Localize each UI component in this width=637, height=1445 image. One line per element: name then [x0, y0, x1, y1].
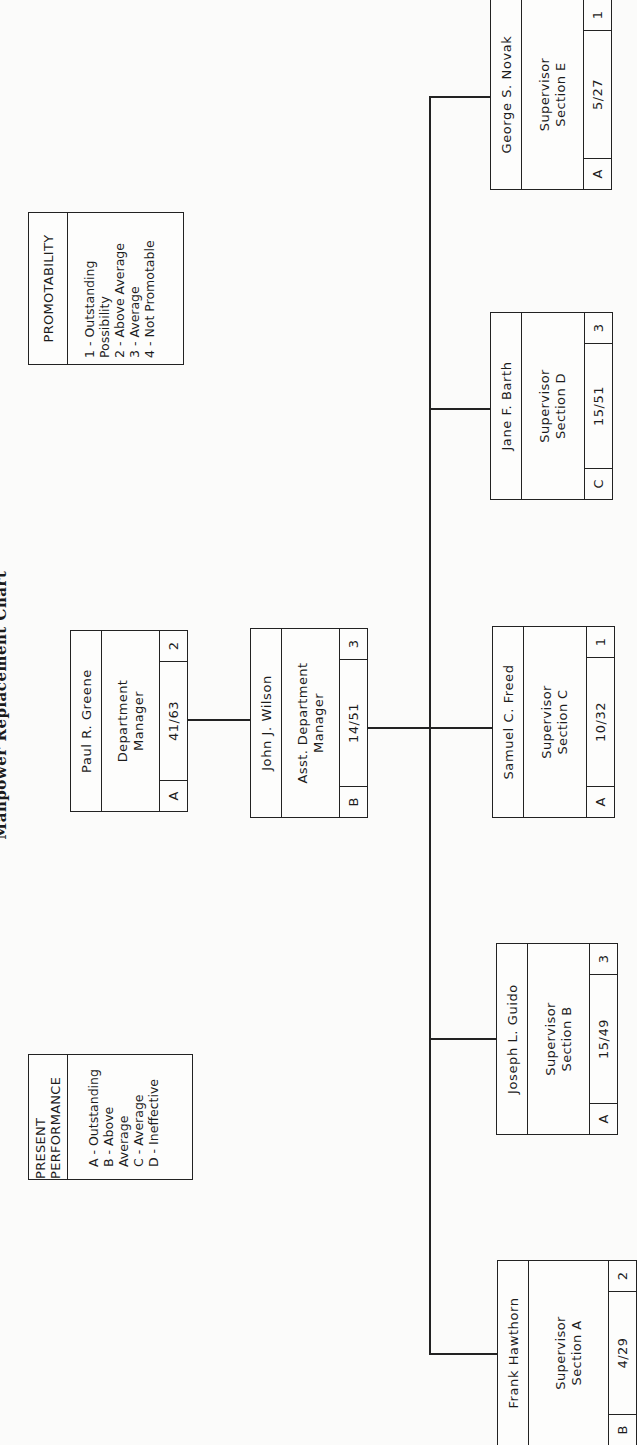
promotability-code: 3	[340, 629, 367, 659]
legend-item: 1 - Outstanding Possibility	[82, 213, 112, 358]
role-line: Manager	[131, 691, 147, 751]
node-codes: B 14/51 3	[339, 629, 367, 817]
node-role: Supervisor Section D	[522, 313, 584, 499]
node-codes: A 41/63 2	[159, 631, 187, 811]
node-samuel-freed[interactable]: Samuel C. Freed Supervisor Section C A 1…	[492, 626, 615, 818]
role-line: Supervisor	[537, 58, 553, 131]
node-george-novak[interactable]: George S. Novak Supervisor Section E A 5…	[490, 0, 612, 190]
node-name: Frank Hawthorn	[498, 1261, 529, 1445]
role-line: Section D	[553, 373, 569, 439]
node-codes: A 15/49 3	[589, 944, 617, 1134]
role-line: Department	[115, 680, 131, 763]
legend-item: 2 - Above Average	[112, 213, 127, 358]
service-ratio: 10/32	[587, 657, 614, 786]
connector-greene-wilson	[186, 719, 252, 721]
service-ratio: 5/27	[584, 30, 611, 158]
legend-item: 4 - Not Promotable	[142, 213, 157, 358]
connector-freed	[429, 727, 493, 729]
legend-present-performance: PRESENT PERFORMANCE A - Outstanding B - …	[28, 1054, 193, 1180]
role-line: Supervisor	[539, 685, 555, 758]
node-codes: A 5/27 1	[583, 0, 611, 189]
node-role: Supervisor Section E	[522, 0, 583, 189]
node-paul-greene[interactable]: Paul R. Greene Department Manager A 41/6…	[70, 630, 188, 812]
node-role: Supervisor Section C	[524, 627, 586, 817]
promotability-code: 3	[585, 313, 612, 343]
performance-code: A	[587, 786, 614, 817]
connector-barth	[429, 408, 491, 410]
node-role: Asst. Department Manager	[282, 629, 339, 817]
role-line: Supervisor	[537, 369, 553, 442]
role-line: Section C	[555, 689, 571, 754]
legend-item: A - Outstanding	[86, 1055, 101, 1167]
node-name: Paul R. Greene	[71, 631, 102, 811]
chart-title: Manpower Replacement Chart	[0, 525, 10, 885]
legend-heading: PRESENT PERFORMANCE	[29, 1055, 68, 1179]
node-name: Jane F. Barth	[491, 313, 522, 499]
legend-heading: PROMOTABILITY	[29, 213, 68, 364]
promotability-code: 2	[160, 631, 187, 661]
node-name: John J. Wilson	[251, 629, 282, 817]
connector-wilson-bus	[366, 727, 430, 729]
role-line: Section E	[553, 62, 569, 126]
node-john-wilson[interactable]: John J. Wilson Asst. Department Manager …	[250, 628, 368, 818]
legend-promotability: PROMOTABILITY 1 - Outstanding Possibilit…	[28, 212, 184, 365]
node-role: Department Manager	[102, 631, 159, 811]
node-role: Supervisor Section A	[529, 1261, 608, 1445]
connector-bus	[429, 97, 431, 1355]
node-codes: C 15/51 3	[584, 313, 612, 499]
node-jane-barth[interactable]: Jane F. Barth Supervisor Section D C 15/…	[490, 312, 613, 500]
role-line: Manager	[311, 693, 327, 753]
legend-item: C - Average	[131, 1055, 146, 1167]
performance-code: A	[590, 1103, 617, 1134]
role-line: Section B	[559, 1007, 575, 1072]
node-codes: B 4/29 2	[608, 1261, 636, 1445]
node-joseph-guido[interactable]: Joseph L. Guido Supervisor Section B A 1…	[496, 943, 618, 1135]
connector-novak	[429, 96, 491, 98]
node-codes: A 10/32 1	[586, 627, 614, 817]
role-line: Supervisor	[553, 1316, 569, 1389]
promotability-code: 3	[590, 944, 617, 974]
performance-code: B	[340, 786, 367, 817]
connector-guido	[429, 1038, 496, 1040]
promotability-code: 1	[584, 0, 611, 30]
connector-hawthorn	[429, 1353, 497, 1355]
node-name: Samuel C. Freed	[493, 627, 524, 817]
promotability-code: 1	[587, 627, 614, 657]
legend-item: B - Above Average	[101, 1055, 131, 1167]
service-ratio: 15/49	[590, 974, 617, 1103]
legend-item: D - Ineffective	[146, 1055, 161, 1167]
node-role: Supervisor Section B	[528, 944, 589, 1134]
performance-code: B	[609, 1414, 636, 1445]
service-ratio: 41/63	[160, 661, 187, 780]
service-ratio: 15/51	[585, 343, 612, 468]
role-line: Supervisor	[543, 1002, 559, 1075]
legend-item: 3 - Average	[127, 213, 142, 358]
performance-code: A	[584, 158, 611, 189]
service-ratio: 14/51	[340, 659, 367, 786]
performance-code: A	[160, 780, 187, 811]
role-line: Section A	[569, 1321, 585, 1386]
node-name: George S. Novak	[491, 0, 522, 189]
role-line: Asst. Department	[295, 663, 311, 784]
node-name: Joseph L. Guido	[497, 944, 528, 1134]
org-chart-page: Manpower Replacement Chart PRESENT PERFO…	[0, 0, 637, 1445]
node-frank-hawthorn[interactable]: Frank Hawthorn Supervisor Section A B 4/…	[497, 1260, 637, 1445]
promotability-code: 2	[609, 1261, 636, 1291]
service-ratio: 4/29	[609, 1291, 636, 1414]
performance-code: C	[585, 468, 612, 499]
